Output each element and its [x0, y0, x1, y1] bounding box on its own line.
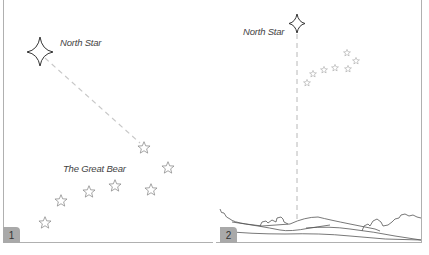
star-icon [145, 184, 157, 195]
great-bear-stars [39, 142, 174, 228]
north-star-label-2: North Star [243, 26, 284, 37]
panel-1-number-badge: 1 [3, 227, 20, 243]
star-icon [332, 64, 339, 71]
star-icon [138, 142, 150, 153]
star-icon [304, 79, 311, 86]
star-icon [55, 195, 67, 206]
star-icon [345, 65, 352, 72]
north-star-label-1: North Star [60, 37, 101, 48]
star-icon [321, 66, 328, 73]
star-icon [310, 70, 317, 77]
star-icon [109, 180, 121, 191]
star-icon [162, 162, 174, 173]
landscape-horizon [220, 209, 421, 240]
star-icon [353, 57, 360, 64]
panel-1-frame [3, 0, 213, 243]
star-icon [83, 186, 95, 197]
north-star-icon [289, 14, 305, 33]
pointer-line-1 [45, 58, 140, 143]
north-star-icon [27, 37, 53, 66]
great-bear-label: The Great Bear [63, 163, 126, 174]
panel-2-number-badge: 2 [220, 227, 237, 243]
great-bear-stars-small [304, 49, 360, 86]
star-icon [39, 217, 51, 228]
star-icon [344, 49, 351, 56]
